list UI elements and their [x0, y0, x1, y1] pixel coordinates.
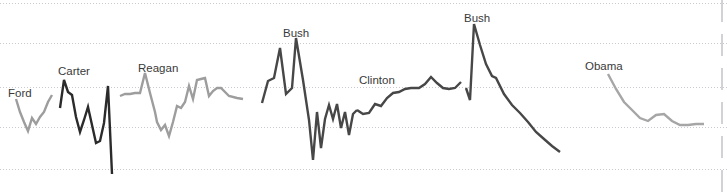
series-line-bush-3 [262, 38, 357, 160]
presidential-approval-line-chart: FordCarterReaganBushClintonBushObama [0, 0, 727, 195]
series-line-obama-6 [608, 74, 704, 125]
series-label-reagan-2: Reagan [138, 62, 178, 74]
series-line-reagan-2 [120, 73, 243, 136]
chart-container: FordCarterReaganBushClintonBushObama [0, 0, 727, 195]
chart-annotation-labels: FordCarterReaganBushClintonBushObama [8, 12, 623, 99]
series-label-clinton-4: Clinton [359, 74, 395, 86]
series-label-ford-0: Ford [8, 87, 32, 99]
series-label-carter-1: Carter [58, 65, 90, 77]
series-label-bush-3: Bush [283, 27, 309, 39]
series-label-bush-5: Bush [464, 12, 490, 24]
chart-series-group [16, 24, 704, 174]
series-label-obama-6: Obama [585, 60, 623, 72]
series-line-ford-0 [16, 95, 52, 131]
series-line-carter-1 [60, 80, 112, 174]
